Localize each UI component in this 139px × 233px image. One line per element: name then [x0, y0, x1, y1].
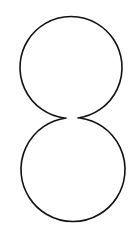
top-circle-arc — [20, 16, 122, 118]
bottom-circle-arc — [21, 118, 125, 222]
figure-eight-diagram — [0, 0, 139, 233]
